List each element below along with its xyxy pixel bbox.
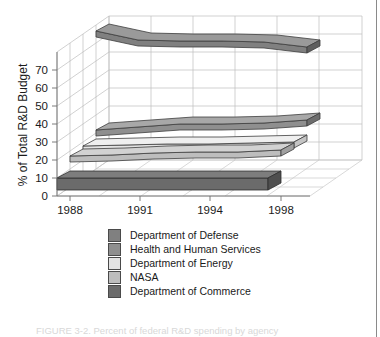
- y-tick-label-40: 40: [35, 118, 48, 130]
- legend-label-department-of-defense: Department of Defense: [130, 230, 239, 241]
- x-tick-label-1988: 1988: [57, 204, 83, 216]
- y-tick-label-20: 20: [35, 154, 48, 166]
- y-tick-label-60: 60: [35, 82, 48, 94]
- legend-item-department-of-commerce: Department of Commerce: [108, 285, 348, 299]
- x-tick-labels: 1988 1991 1994 1998: [57, 204, 294, 216]
- y-tick-label-10: 10: [35, 172, 48, 184]
- chart-3d-ribbon: 0 10 20 30 40 50 60 70 1988 1991 1994 19…: [0, 0, 380, 225]
- ribbon-department-of-defense: [96, 24, 320, 53]
- figure-caption: FIGURE 3-2. Percent of federal R&D spend…: [36, 325, 356, 337]
- figure-container: 0 10 20 30 40 50 60 70 1988 1991 1994 19…: [0, 0, 380, 337]
- legend-label-nasa: NASA: [130, 272, 159, 283]
- y-tick-label-0: 0: [42, 190, 48, 202]
- legend-item-department-of-energy: Department of Energy: [108, 256, 348, 270]
- legend-label-department-of-commerce: Department of Commerce: [130, 286, 251, 297]
- legend-swatch-icon-department-of-energy: [108, 257, 121, 270]
- y-tick-label-30: 30: [35, 136, 48, 148]
- y-tick-labels: 0 10 20 30 40 50 60 70: [35, 64, 48, 202]
- x-tick-label-1991: 1991: [127, 204, 153, 216]
- legend-swatch-icon-department-of-defense: [108, 229, 121, 242]
- y-tick-label-70: 70: [35, 64, 48, 76]
- x-tick-label-1994: 1994: [197, 204, 223, 216]
- x-axis: [57, 196, 310, 201]
- legend-item-nasa: NASA: [108, 271, 348, 285]
- ribbon-department-of-commerce: [57, 171, 281, 190]
- y-tick-label-50: 50: [35, 100, 48, 112]
- legend-label-health-and-human-services: Health and Human Services: [130, 244, 261, 255]
- legend-swatch-icon-health-and-human-services: [108, 243, 121, 256]
- chart-legend: Department of Defense Health and Human S…: [108, 228, 348, 299]
- y-axis: [52, 52, 57, 196]
- y-axis-title: % of Total R&D Budget: [16, 63, 30, 186]
- legend-label-department-of-energy: Department of Energy: [130, 258, 233, 269]
- ribbon-health-and-human-services: [96, 113, 320, 136]
- legend-item-health-and-human-services: Health and Human Services: [108, 242, 348, 256]
- legend-item-department-of-defense: Department of Defense: [108, 228, 348, 242]
- legend-swatch-icon-department-of-commerce: [108, 285, 121, 298]
- x-tick-label-1998: 1998: [268, 204, 294, 216]
- legend-swatch-icon-nasa: [108, 271, 121, 284]
